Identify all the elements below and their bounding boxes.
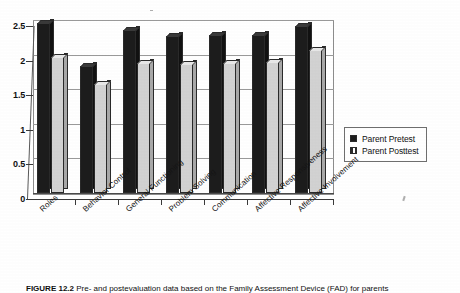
- bar-posttest: [180, 64, 193, 193]
- figure-container: Parent Pretest Parent Posttest FIGURE 12…: [0, 0, 460, 293]
- bar-face: [80, 66, 93, 193]
- y-tick-mark: [26, 95, 33, 96]
- y-axis-labels: [0, 0, 20, 293]
- x-tick-mark: [118, 199, 119, 205]
- x-tick-mark: [75, 199, 76, 205]
- legend-item-parent-posttest: Parent Posttest: [350, 145, 419, 156]
- figure-caption: FIGURE 12.2 Pre- and postevaluation data…: [26, 284, 446, 293]
- y-tick-mark: [26, 26, 33, 27]
- bar-side: [322, 46, 326, 189]
- x-axis-label: Roles: [38, 193, 60, 214]
- bar-side: [236, 59, 240, 189]
- x-tick-mark: [204, 199, 205, 205]
- legend-label-pretest: Parent Pretest: [362, 134, 415, 144]
- bar-side: [193, 60, 197, 189]
- y-tick-mark: [26, 130, 33, 131]
- bar-face: [51, 57, 64, 193]
- bar-posttest: [266, 62, 279, 193]
- legend-swatch-icon-posttest: [350, 147, 357, 154]
- bar-group: [80, 20, 111, 193]
- x-tick-mark: [247, 199, 248, 205]
- x-tick-mark: [333, 199, 334, 205]
- figure-caption-text: Pre- and postevaluation data based on th…: [76, 284, 388, 293]
- bar-group: [209, 20, 240, 193]
- plot-area: [33, 20, 334, 193]
- bar-group: [37, 20, 68, 193]
- y-tick-label: 1: [20, 126, 25, 135]
- y-tick-mark: [26, 164, 33, 165]
- bar-face: [252, 35, 265, 193]
- y-tick-mark: [26, 199, 33, 200]
- y-tick-label: 2.5: [13, 22, 25, 31]
- scan-speck: [150, 10, 153, 11]
- legend-swatch-icon-pretest: [350, 135, 357, 142]
- bar-pretest: [37, 23, 50, 193]
- y-tick-mark: [26, 61, 33, 62]
- bar-posttest: [51, 57, 64, 193]
- bar-face: [94, 84, 107, 193]
- bar-side: [279, 58, 283, 189]
- bar-pretest: [80, 66, 93, 193]
- scan-speck: [402, 196, 405, 201]
- legend-label-posttest: Parent Posttest: [362, 146, 419, 156]
- bar-face: [137, 63, 150, 193]
- bar-pretest: [252, 35, 265, 193]
- x-tick-mark: [290, 199, 291, 205]
- bar-posttest: [223, 63, 236, 193]
- bar-side: [64, 53, 68, 189]
- legend-item-parent-pretest: Parent Pretest: [350, 133, 419, 144]
- bar-face: [180, 64, 193, 193]
- bar-posttest: [309, 50, 322, 193]
- bar-face: [223, 63, 236, 193]
- x-tick-mark: [161, 199, 162, 205]
- bar-face: [309, 50, 322, 193]
- figure-caption-label: FIGURE 12.2: [26, 284, 74, 293]
- bar-group: [252, 20, 283, 193]
- bar-side: [107, 80, 111, 189]
- bar-face: [37, 23, 50, 193]
- bar-side: [150, 59, 154, 189]
- y-tick-label: 0: [20, 195, 25, 204]
- y-tick-label: 0.5: [13, 160, 25, 169]
- bar-posttest: [137, 63, 150, 193]
- bar-posttest: [94, 84, 107, 193]
- y-tick-label: 2: [20, 57, 25, 66]
- bar-face: [266, 62, 279, 193]
- y-tick-label: 1.5: [13, 91, 25, 100]
